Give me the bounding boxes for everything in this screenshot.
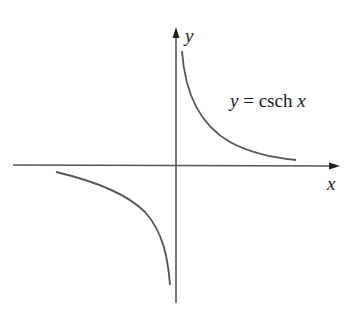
x-axis-label: x: [326, 173, 336, 194]
csch-graph: y x y = csch x: [0, 0, 363, 332]
equation-equals: =: [238, 90, 258, 111]
equation-lhs: y: [228, 90, 239, 111]
equation-variable: x: [296, 90, 306, 111]
y-axis-arrow-icon: [173, 27, 180, 38]
equation-function: csch: [259, 90, 298, 111]
x-axis-arrow-icon: [329, 163, 340, 170]
y-axis-label: y: [183, 25, 194, 46]
equation-label: y = csch x: [228, 90, 306, 111]
curve-negative-branch: [56, 172, 170, 285]
